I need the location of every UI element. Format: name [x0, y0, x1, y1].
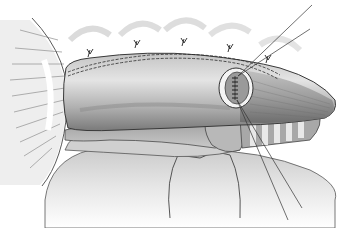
illustration-canvas	[0, 0, 348, 228]
tubular-organ-main	[63, 53, 335, 131]
retracted-tissue-left	[0, 18, 68, 186]
anastomosis-window	[219, 68, 253, 108]
surgical-illustration	[0, 0, 348, 228]
background-folds	[70, 20, 300, 50]
